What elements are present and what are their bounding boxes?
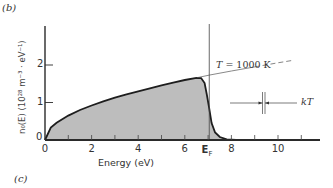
temperature-annotation: T = 1000 K <box>216 59 271 70</box>
x-tick-label: 8 <box>228 143 234 154</box>
y-axis-label: n₀(E) (10²⁸ m⁻³ · eV⁻¹) <box>17 40 27 134</box>
figure-container: (b) 0246810 012 EF T = 1000 K kT Energy … <box>0 0 333 188</box>
temperature-value: = 1000 K <box>225 59 270 70</box>
kt-width-marker <box>230 92 297 114</box>
x-axis-label: Energy (eV) <box>98 157 154 168</box>
x-tick-label: 6 <box>182 143 188 154</box>
y-tick-label: 0 <box>36 131 42 142</box>
y-tick-label: 2 <box>37 58 43 69</box>
x-tick-label: 10 <box>272 143 285 154</box>
fermi-label-main: E <box>202 144 209 155</box>
plot-area <box>0 0 333 188</box>
occupied-states-fill <box>45 78 320 140</box>
panel-label-c: (c) <box>14 173 27 184</box>
fermi-label-sub: F <box>208 150 212 158</box>
y-tick-label: 1 <box>37 96 43 107</box>
x-tick-label: 0 <box>42 143 48 154</box>
x-tick-label: 4 <box>135 143 141 154</box>
fermi-energy-label: EF <box>202 144 213 158</box>
x-tick-label: 2 <box>88 143 94 154</box>
kt-label-text: kT <box>301 96 313 107</box>
kt-label: kT <box>301 96 313 107</box>
temperature-symbol: T <box>216 59 222 70</box>
